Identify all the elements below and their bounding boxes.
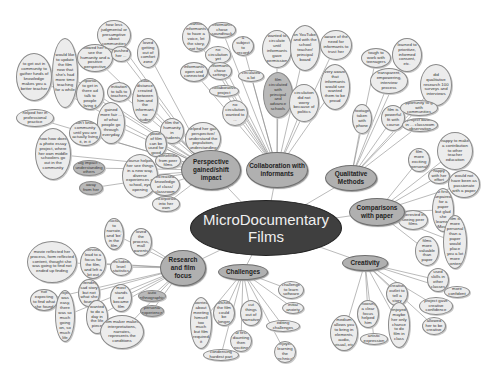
leaf-label: pushed her ... xyxy=(114,49,128,59)
leaf-label: circulation did not worry because of pol… xyxy=(292,91,316,116)
branch-label: Perspective gained/shift impact xyxy=(184,158,238,181)
concept-map: would like to update the film now that s… xyxy=(0,0,496,377)
leaf-node-research: what most stands out became film topic xyxy=(110,284,132,312)
leaf-label: film is powerful fit with course xyxy=(384,108,402,128)
leaf-label: loved getting out of comfort zone xyxy=(140,41,156,66)
leaf-node-challenges: challenge to learn software xyxy=(278,281,304,299)
leaf-node-qualitative: footage taken with phone xyxy=(352,104,372,134)
leaf-label: project gave creative confidence xyxy=(422,299,450,314)
leaf-node-comparisons: happy to make a contribution to other te… xyxy=(437,132,473,170)
leaf-node-collaboration: circulated a lot xyxy=(238,70,264,82)
leaf-label: used skills in other classes xyxy=(430,270,446,290)
leaf-node-creativity: allowed her to be creative xyxy=(422,317,446,335)
leaf-node-qualitative: project based in ... classroom observati… xyxy=(402,118,438,132)
leaf-node-perspective: would like to update the film now that s… xyxy=(52,38,78,108)
leaf-label: cut things out of narrative xyxy=(243,303,260,323)
leaf-label: helped her in professional practice xyxy=(19,111,51,126)
leaf-node-research: auto ethnographic xyxy=(138,290,166,302)
leaf-label: worried about meeting himself too much b… xyxy=(193,301,209,345)
leaf-label: helped her gain perspective/ understand … xyxy=(188,127,218,152)
leaf-node-research: included level statistics xyxy=(110,258,132,276)
leaf-label: wanted informants to have a voice, let t… xyxy=(185,22,207,52)
leaf-label: condensing hardest part xyxy=(206,350,236,360)
leaf-node-challenges: wished the film could be longer xyxy=(213,300,235,326)
leaf-node-challenges: cut things out of narrative xyxy=(240,300,262,326)
leaf-label: collaborative project xyxy=(212,86,236,96)
leaf-node-perspective: step away from her computer xyxy=(79,181,103,195)
branch-node-collaboration: Collaboration with informants xyxy=(246,152,308,188)
leaf-label: project based in ... classroom observati… xyxy=(405,118,435,132)
leaf-node-collaboration: on YouTube, and with the school teacher/… xyxy=(290,25,320,71)
leaf-node-creativity: artistic expression xyxy=(360,333,388,345)
leaf-node-perspective: pushed her ... xyxy=(111,46,131,62)
leaf-label: interested in seeing peer films xyxy=(401,213,425,228)
leaf-node-creativity: enjoyed, maybe her only chance to do fil… xyxy=(388,302,410,348)
leaf-node-collaboration: aware of the need for informants to trus… xyxy=(320,30,352,60)
leaf-node-research: not expecting to find what she found xyxy=(30,289,58,311)
leaf-node-challenges: editing challenges xyxy=(266,320,300,332)
leaf-node-comparisons: film more exciting personal xyxy=(408,148,430,172)
leaf-node-research: film maker makes interpretations, narrat… xyxy=(100,315,144,349)
leaf-node-perspective: helped her in professional practice xyxy=(16,109,54,127)
leaf-label: wished the film could be longer xyxy=(216,301,232,326)
leaf-label: more confident xyxy=(447,287,467,297)
branch-node-challenges: Challenges xyxy=(218,264,268,280)
leaf-node-perspective: can now incorporate into her own teachin… xyxy=(152,196,180,212)
leaf-label: opportunity to go with communities xyxy=(403,101,435,116)
leaf-node-qualitative: opportunity to go with communities xyxy=(400,100,438,116)
leaf-label: at first daunting then exciting xyxy=(233,331,249,351)
branch-node-comparisons: Comparisons with paper xyxy=(349,198,405,226)
leaf-label: gained more fair ... of what people go t… xyxy=(100,108,122,138)
leaf-node-qualitative: transparent, empowering, interview proce… xyxy=(370,68,408,94)
leaf-label: on YouTube, and with the school teacher/… xyxy=(293,33,317,63)
leaf-label: interviews lead to a focus for the film,… xyxy=(83,248,103,278)
leaf-label: happy to make a contribution to other te… xyxy=(440,139,470,164)
leaf-label: tough to work with teenagers xyxy=(364,51,388,66)
leaf-node-perspective: initiation to talk to teachers xyxy=(107,82,131,102)
leaf-label: circulated a lot xyxy=(241,71,261,81)
leaf-label: film more exciting personal xyxy=(411,150,427,170)
leaf-node-perspective: gained more fair ... of what people go t… xyxy=(97,102,125,144)
leaf-label: wanted a subject to record her xyxy=(235,36,251,56)
leaf-node-perspective: allowed her to see the humanity and a po… xyxy=(77,44,113,72)
leaf-label: informants open and connected xyxy=(183,65,205,80)
leaf-label: films more valuable than paper xyxy=(418,239,436,264)
leaf-node-perspective: to get out in community to gather funds … xyxy=(16,53,52,101)
branch-label: Creativity xyxy=(350,259,379,267)
leaf-node-comparisons: happy with her effort xyxy=(428,168,450,184)
leaf-label: allowed her to be creative xyxy=(425,319,443,334)
leaf-node-research: personal experience xyxy=(140,305,164,317)
leaf-label: how how does a photo essay project, wher… xyxy=(38,137,68,172)
leaf-label: footage taken with phone xyxy=(355,109,369,129)
leaf-label: happy with her effort xyxy=(431,169,447,184)
leaf-node-research: reluctant to narrate, and 'be' in the fi… xyxy=(104,218,124,250)
leaf-label: learned to prioritize, informed consent,… xyxy=(395,43,419,68)
leaf-label: enjoyed, maybe her only chance to do fil… xyxy=(391,308,407,343)
leaf-node-collaboration: wanted to circulate until informants gav… xyxy=(262,30,292,68)
leaf-node-perspective: valuable distance created between him an… xyxy=(132,79,158,123)
leaf-label: how less judgmental or presumptive about… xyxy=(100,23,128,48)
leaf-label: creative outlet to tell a story xyxy=(389,284,405,304)
central-topic-node: MicroDocumentary Films xyxy=(190,200,342,256)
leaf-node-creativity: more confident xyxy=(444,286,470,298)
leaf-label: auto ethnographic xyxy=(140,291,165,301)
branch-node-qualitative: Qualitative Methods xyxy=(325,165,377,191)
leaf-label: allowed her to see the humanity and a po… xyxy=(80,46,110,71)
branch-node-creativity: Creativity xyxy=(342,255,388,271)
branch-node-research: Research and film focus xyxy=(160,250,206,286)
leaf-node-collaboration: wanted a subject to record her xyxy=(232,36,254,56)
leaf-label: challenge to learn software xyxy=(281,283,301,298)
leaf-node-collaboration: informants chose soundtrack xyxy=(208,22,236,38)
leaf-node-challenges: condensing hardest part xyxy=(203,349,239,361)
leaf-node-perspective: how how does a photo essay project, wher… xyxy=(35,128,71,180)
leaf-node-comparisons: films more valuable than paper xyxy=(415,236,439,266)
leaf-node-collaboration: very aware that informants would see wan… xyxy=(320,64,350,110)
branch-node-perspective: Perspective gained/shift impact xyxy=(181,150,241,190)
leaf-label: increased knowledge of class/ classroom xyxy=(153,175,177,195)
branch-label: Research and film focus xyxy=(163,256,203,279)
leaf-node-challenges: initial anxiety xyxy=(282,302,304,314)
leaf-node-comparisons: film is more personal than a paper would… xyxy=(443,215,467,269)
leaf-node-research: movie reflected her process, form reflec… xyxy=(27,241,77,283)
leaf-label: editing challenges xyxy=(269,321,297,331)
leaf-node-research: interviews lead to a focus for the film,… xyxy=(80,247,106,279)
